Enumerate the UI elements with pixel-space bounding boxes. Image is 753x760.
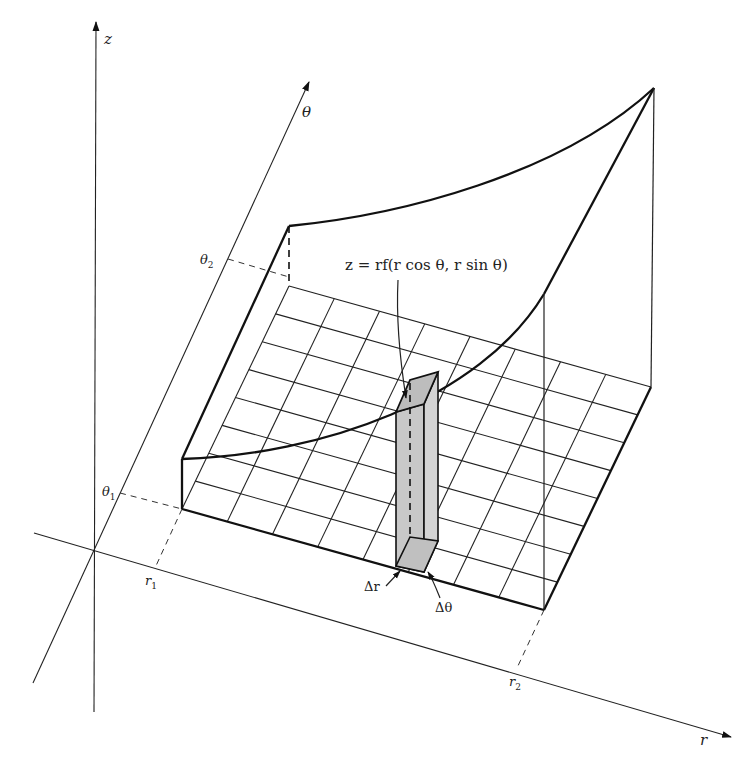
right-base-edge <box>544 387 651 610</box>
grid-line-theta <box>262 342 624 443</box>
front-base-edge <box>182 509 544 610</box>
grid-line-theta <box>195 481 557 582</box>
r-axis-label: r <box>700 731 708 749</box>
axes <box>33 22 731 737</box>
projection-lines <box>120 259 544 668</box>
surface-equation-label: z = rf(r cos θ, r sin θ) <box>345 256 508 274</box>
back-top-curve <box>289 88 654 226</box>
r2-projection <box>517 610 544 668</box>
r2-label: r2 <box>509 674 521 692</box>
delta-theta-label: Δθ <box>435 600 452 615</box>
grid-line-theta <box>276 314 638 415</box>
delta-r-label: Δr <box>364 579 380 594</box>
theta1-projection <box>120 493 182 509</box>
r-axis <box>34 533 731 737</box>
volume-element-column <box>396 372 438 572</box>
theta-axis-label: θ <box>302 103 311 121</box>
back-right-edge <box>651 88 654 387</box>
theta1-label: θ1 <box>102 484 116 502</box>
delta-theta-pointer <box>428 572 440 598</box>
grid-left-edge <box>182 286 289 509</box>
polar-volume-diagram: z θ r θ2 θ1 r1 r2 z = rf(r cos θ, r sin … <box>0 0 753 760</box>
z-axis-label: z <box>103 30 112 48</box>
r1-projection <box>155 509 182 568</box>
theta2-label: θ2 <box>200 252 214 270</box>
left-top-edge <box>182 226 289 459</box>
z-axis <box>94 22 96 712</box>
r1-label: r1 <box>145 573 157 591</box>
theta-axis <box>33 82 309 683</box>
delta-r-pointer <box>386 571 400 586</box>
front-top-curve <box>182 294 544 459</box>
right-top-edge <box>544 88 654 294</box>
grid-line-theta <box>209 453 571 554</box>
theta2-projection <box>228 259 289 277</box>
